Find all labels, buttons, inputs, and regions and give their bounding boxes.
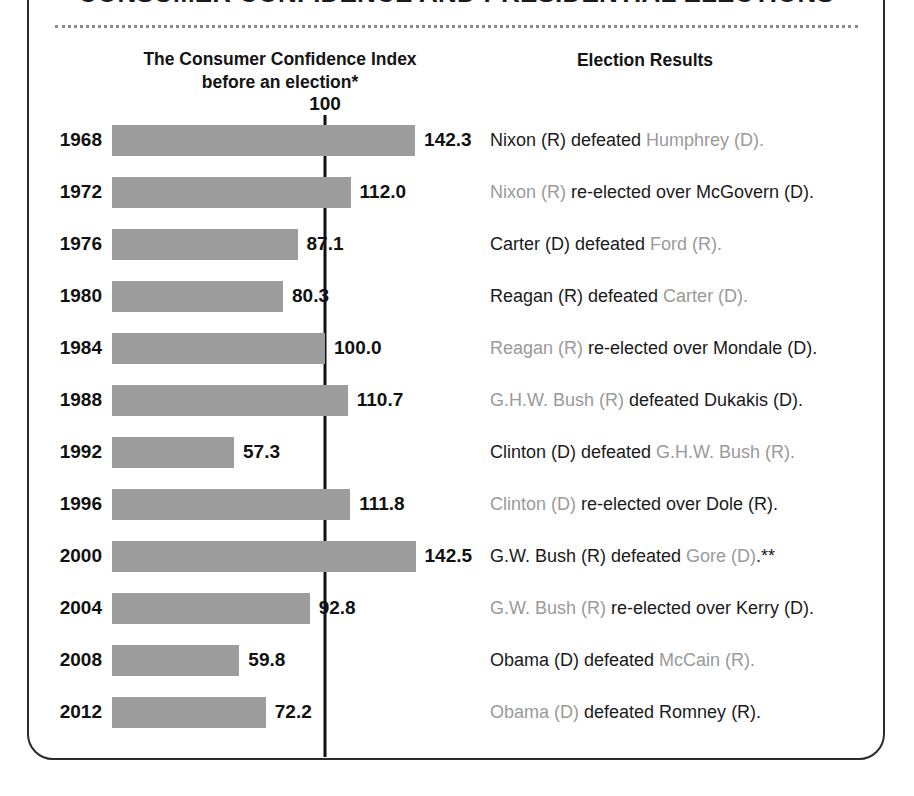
result-text-strong: .** xyxy=(756,546,775,566)
row-year-label: 2000 xyxy=(20,545,102,567)
row-value-label: 57.3 xyxy=(243,441,280,463)
result-text-dim: G.H.W. Bush (R). xyxy=(656,442,795,462)
row-value-label: 80.3 xyxy=(292,285,329,307)
row-year-label: 1968 xyxy=(20,129,102,151)
row-election-result: Nixon (R) re-elected over McGovern (D). xyxy=(490,182,814,203)
row-year-label: 1980 xyxy=(20,285,102,307)
row-election-result: Reagan (R) defeated Carter (D). xyxy=(490,286,748,307)
row-value-label: 59.8 xyxy=(248,649,285,671)
result-text-dim: Nixon (R) xyxy=(490,182,571,202)
result-text-strong: defeated Dukakis (D). xyxy=(629,390,803,410)
result-text-strong: Clinton (D) defeated xyxy=(490,442,656,462)
row-election-result: G.W. Bush (R) re-elected over Kerry (D). xyxy=(490,598,814,619)
row-value-label: 142.5 xyxy=(425,545,473,567)
result-text-strong: Carter (D) defeated xyxy=(490,234,650,254)
result-text-strong: defeated Romney (R). xyxy=(584,702,761,722)
result-text-strong: re-elected over Kerry (D). xyxy=(611,598,814,618)
row-bar xyxy=(112,593,310,624)
chart-row: 1996111.8Clinton (D) re-elected over Dol… xyxy=(0,482,914,534)
result-text-strong: Nixon (R) defeated xyxy=(490,130,646,150)
row-election-result: Reagan (R) re-elected over Mondale (D). xyxy=(490,338,817,359)
result-text-dim: G.W. Bush (R) xyxy=(490,598,611,618)
row-year-label: 1988 xyxy=(20,389,102,411)
row-bar xyxy=(112,489,350,520)
chart-row: 200492.8G.W. Bush (R) re-elected over Ke… xyxy=(0,586,914,638)
chart-row: 2000142.5G.W. Bush (R) defeated Gore (D)… xyxy=(0,534,914,586)
result-text-dim: Gore (D) xyxy=(686,546,756,566)
chart-row: 1972112.0Nixon (R) re-elected over McGov… xyxy=(0,170,914,222)
row-year-label: 1972 xyxy=(20,181,102,203)
row-bar xyxy=(112,697,266,728)
row-value-label: 111.8 xyxy=(359,493,404,515)
row-value-label: 142.3 xyxy=(424,129,472,151)
row-year-label: 2012 xyxy=(20,701,102,723)
row-value-label: 100.0 xyxy=(334,337,382,359)
row-bar xyxy=(112,541,416,572)
row-bar xyxy=(112,177,351,208)
chart-row: 1968142.3Nixon (R) defeated Humphrey (D)… xyxy=(0,118,914,170)
row-election-result: Obama (D) defeated Romney (R). xyxy=(490,702,761,723)
chart-row: 197687.1Carter (D) defeated Ford (R). xyxy=(0,222,914,274)
row-year-label: 1976 xyxy=(20,233,102,255)
row-value-label: 92.8 xyxy=(319,597,356,619)
result-text-strong: re-elected over Dole (R). xyxy=(581,494,778,514)
result-text-dim: Obama (D) xyxy=(490,702,584,722)
row-value-label: 87.1 xyxy=(307,233,344,255)
result-text-dim: Ford (R). xyxy=(650,234,722,254)
row-election-result: Clinton (D) re-elected over Dole (R). xyxy=(490,494,778,515)
chart-row: 199257.3Clinton (D) defeated G.H.W. Bush… xyxy=(0,430,914,482)
row-year-label: 2008 xyxy=(20,649,102,671)
row-bar xyxy=(112,437,234,468)
chart-row: 1988110.7G.H.W. Bush (R) defeated Dukaki… xyxy=(0,378,914,430)
row-value-label: 110.7 xyxy=(357,389,404,411)
chart-root: CONSUMER CONFIDENCE AND PRESIDENTIAL ELE… xyxy=(0,0,914,796)
row-year-label: 1984 xyxy=(20,337,102,359)
row-bar xyxy=(112,645,239,676)
chart-rows: 1968142.3Nixon (R) defeated Humphrey (D)… xyxy=(0,0,914,796)
result-text-strong: G.W. Bush (R) defeated xyxy=(490,546,686,566)
row-election-result: Clinton (D) defeated G.H.W. Bush (R). xyxy=(490,442,795,463)
chart-row: 198080.3Reagan (R) defeated Carter (D). xyxy=(0,274,914,326)
result-text-strong: Obama (D) defeated xyxy=(490,650,659,670)
row-election-result: Carter (D) defeated Ford (R). xyxy=(490,234,722,255)
result-text-strong: re-elected over McGovern (D). xyxy=(571,182,814,202)
result-text-dim: Reagan (R) xyxy=(490,338,588,358)
row-year-label: 2004 xyxy=(20,597,102,619)
result-text-strong: Reagan (R) defeated xyxy=(490,286,663,306)
row-bar xyxy=(112,385,348,416)
row-value-label: 72.2 xyxy=(275,701,312,723)
row-value-label: 112.0 xyxy=(360,181,407,203)
row-election-result: Nixon (R) defeated Humphrey (D). xyxy=(490,130,764,151)
row-election-result: G.H.W. Bush (R) defeated Dukakis (D). xyxy=(490,390,803,411)
row-bar xyxy=(112,125,415,156)
result-text-dim: McCain (R). xyxy=(659,650,755,670)
row-year-label: 1992 xyxy=(20,441,102,463)
chart-row: 201272.2Obama (D) defeated Romney (R). xyxy=(0,690,914,742)
row-election-result: G.W. Bush (R) defeated Gore (D).** xyxy=(490,546,775,567)
row-bar xyxy=(112,333,325,364)
result-text-dim: Humphrey (D). xyxy=(646,130,764,150)
result-text-strong: re-elected over Mondale (D). xyxy=(588,338,817,358)
row-bar xyxy=(112,281,283,312)
row-year-label: 1996 xyxy=(20,493,102,515)
result-text-dim: Clinton (D) xyxy=(490,494,581,514)
chart-row: 1984100.0Reagan (R) re-elected over Mond… xyxy=(0,326,914,378)
result-text-dim: Carter (D). xyxy=(663,286,748,306)
row-election-result: Obama (D) defeated McCain (R). xyxy=(490,650,755,671)
chart-row: 200859.8Obama (D) defeated McCain (R). xyxy=(0,638,914,690)
row-bar xyxy=(112,229,298,260)
result-text-dim: G.H.W. Bush (R) xyxy=(490,390,629,410)
